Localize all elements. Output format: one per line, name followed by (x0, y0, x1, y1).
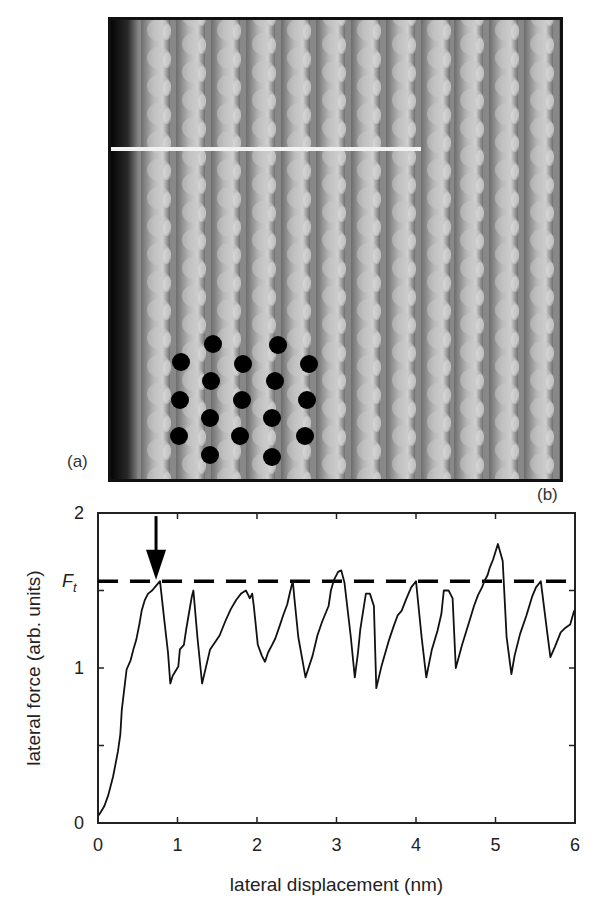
svg-text:2: 2 (74, 503, 84, 523)
x-axis-title: lateral displacement (nm) (230, 874, 443, 895)
threshold-label: Ft (62, 571, 78, 595)
svg-text:6: 6 (570, 835, 580, 855)
y-axis-title: lateral force (arb. units) (23, 570, 44, 765)
svg-text:1: 1 (172, 835, 182, 855)
svg-text:0: 0 (93, 835, 103, 855)
svg-text:1: 1 (74, 658, 84, 678)
svg-text:2: 2 (252, 835, 262, 855)
force-curve (99, 544, 574, 815)
arrow-down-icon (146, 516, 166, 580)
svg-text:3: 3 (331, 835, 341, 855)
svg-text:0: 0 (74, 813, 84, 833)
svg-text:5: 5 (490, 835, 500, 855)
lateral-force-chart: 0123456012 Ft lateral displacement (nm) … (0, 0, 609, 910)
svg-text:4: 4 (411, 835, 421, 855)
